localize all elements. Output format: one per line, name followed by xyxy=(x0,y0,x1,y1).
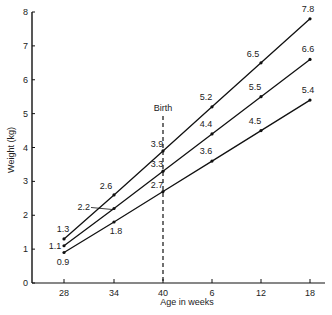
data-point xyxy=(112,207,115,210)
data-point xyxy=(210,159,213,162)
x-tick-label: 12 xyxy=(256,288,266,298)
data-point-label: 4.4 xyxy=(200,119,213,129)
y-tick-label: 4 xyxy=(23,143,28,153)
data-point xyxy=(62,237,65,240)
data-point-label: 5.4 xyxy=(302,85,315,95)
y-tick-label: 6 xyxy=(23,75,28,85)
y-tick-label: 3 xyxy=(23,176,28,186)
y-tick-label: 2 xyxy=(23,210,28,220)
series-lines xyxy=(62,17,311,254)
data-point-label: 2.6 xyxy=(100,181,113,191)
data-point-label: 7.8 xyxy=(302,4,315,14)
data-point-label: 1.1 xyxy=(49,241,62,251)
data-point xyxy=(259,129,262,132)
y-tick-label: 7 xyxy=(23,41,28,51)
data-point xyxy=(62,251,65,254)
series-line-lower xyxy=(64,100,310,252)
series-line-middle xyxy=(64,59,310,245)
data-point-label: 3.9 xyxy=(151,139,164,149)
data-point-label: 5.2 xyxy=(200,92,213,102)
data-point xyxy=(161,170,164,173)
x-tick-label: 34 xyxy=(109,288,119,298)
data-point-label: 1.8 xyxy=(110,226,123,236)
axes: 01234567828344061218 xyxy=(23,7,325,298)
data-point xyxy=(210,132,213,135)
data-point-label: 5.5 xyxy=(249,82,262,92)
data-point-label: 3.6 xyxy=(200,146,213,156)
data-point-label: 6.6 xyxy=(302,44,315,54)
data-point xyxy=(210,105,213,108)
data-point xyxy=(161,149,164,152)
data-point xyxy=(112,220,115,223)
y-axis-title: Weight (kg) xyxy=(6,127,16,173)
data-point-label: 2.7 xyxy=(151,180,164,190)
data-point-label: 1.3 xyxy=(57,224,70,234)
data-point xyxy=(308,17,311,20)
data-point-label: 3.3 xyxy=(151,159,164,169)
data-point xyxy=(308,58,311,61)
label-leader-line xyxy=(91,207,112,209)
x-axis-title: Age in weeks xyxy=(160,297,214,307)
data-point xyxy=(112,193,115,196)
data-point xyxy=(259,61,262,64)
x-tick-label: 28 xyxy=(59,288,69,298)
series-line-upper xyxy=(64,19,310,239)
data-point xyxy=(62,244,65,247)
y-tick-label: 5 xyxy=(23,109,28,119)
data-point-label: 2.2 xyxy=(77,202,90,212)
data-point xyxy=(259,95,262,98)
x-tick-label: 18 xyxy=(305,288,315,298)
weight-chart: 01234567828344061218 Birth 1.32.63.95.26… xyxy=(0,0,332,315)
y-tick-label: 8 xyxy=(23,7,28,17)
data-point-label: 4.5 xyxy=(249,116,262,126)
data-point xyxy=(308,98,311,101)
y-tick-label: 1 xyxy=(23,244,28,254)
data-point-label: 0.9 xyxy=(57,257,70,267)
y-tick-label: 0 xyxy=(23,278,28,288)
birth-label: Birth xyxy=(154,103,173,113)
data-point-label: 6.5 xyxy=(247,49,260,59)
data-point xyxy=(161,190,164,193)
